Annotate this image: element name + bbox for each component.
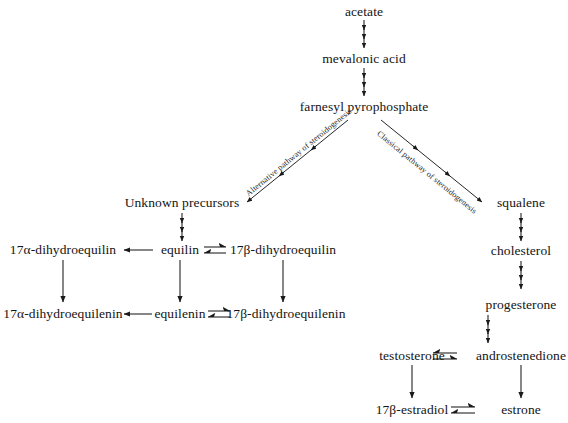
equilibrium-equilin-17b-dihydroequilin <box>204 247 226 253</box>
node-17a-dihydroequilin: 17α-dihydroequilin <box>10 243 116 257</box>
node-unknown-precursors: Unknown precursors <box>125 196 240 210</box>
node-equilenin: equilenin <box>154 307 205 321</box>
node-progesterone: progesterone <box>486 298 557 312</box>
node-farnesyl-pyrophosphate: farnesyl pyrophosphate <box>300 100 429 114</box>
node-17b-dihydroequilenin: 17β-dihydroequilenin <box>226 307 345 321</box>
node-squalene: squalene <box>497 196 545 210</box>
arrow-alternative-pathway <box>247 120 348 202</box>
node-cholesterol: cholesterol <box>491 244 551 258</box>
label-classical-pathway: Classical pathway of steroidogenesis <box>375 129 478 216</box>
label-alternative-pathway: Alternative pathway of steroidogenesis <box>244 106 353 197</box>
node-androstenedione: androstenedione <box>476 349 566 363</box>
pathway-diagram: acetate mevalonic acid farnesyl pyrophos… <box>0 0 568 423</box>
node-17a-dihydroequilenin: 17α-dihydroequilenin <box>3 307 122 321</box>
node-mevalonic-acid: mevalonic acid <box>322 52 406 66</box>
node-estrone: estrone <box>501 403 541 417</box>
node-equilin: equilin <box>161 243 199 257</box>
node-17b-dihydroequilin: 17β-dihydroequilin <box>230 243 336 257</box>
node-17b-estradiol: 17β-estradiol <box>376 403 449 417</box>
arrow-classical-pathway <box>381 120 482 202</box>
node-acetate: acetate <box>345 5 383 19</box>
node-testosterone: testosterone <box>379 349 445 363</box>
equilibrium-17b-estradiol-estrone <box>451 407 475 413</box>
